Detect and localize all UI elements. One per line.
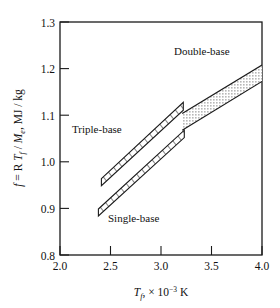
y-tick-label-1-1: 1.1 [41,110,56,122]
x-tick-label-2-5: 2.5 [103,260,118,272]
y-title-equals: = R [12,161,24,184]
x-tick-label-2-0: 2.0 [53,260,68,272]
x-tick-label-4-0: 4.0 [255,260,270,272]
y-tick-label-0-9: 0.9 [41,203,56,215]
x-title-exponent: −3 [169,285,177,294]
chart-background [0,0,280,308]
y-tick-label-1-3: 1.3 [41,17,56,29]
series-label-triple-base: Triple-base [72,123,122,135]
x-title-unit: K [177,286,189,298]
series-label-single-base: Single-base [108,212,159,224]
x-tick-label-3-0: 3.0 [154,260,169,272]
chart-figure: 1.3 1.2 1.1 1.0 0.9 0.8 2.0 2.5 3.0 3.5 … [0,0,280,308]
x-title-rest: , × 10 [142,286,169,299]
y-title-slash: / [12,143,24,152]
y-title-rest: , MJ / kg [12,89,25,130]
series-label-double-base: Double-base [174,45,230,57]
y-tick-label-1-2: 1.2 [41,63,56,75]
y-tick-label-1-0: 1.0 [41,156,56,168]
x-tick-label-3-5: 3.5 [204,260,219,272]
chart-svg: 1.3 1.2 1.1 1.0 0.9 0.8 2.0 2.5 3.0 3.5 … [0,0,280,308]
